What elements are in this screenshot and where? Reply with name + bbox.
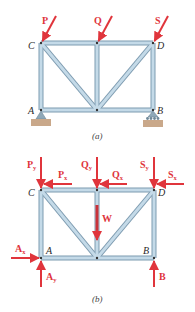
- joint-d-label: D: [156, 40, 165, 51]
- truss-a: P Q S C D A B (a): [27, 15, 168, 141]
- joint-c-label-b: C: [28, 187, 35, 198]
- force-qy-label: Qy: [81, 159, 93, 171]
- load-p-label: P: [42, 15, 48, 26]
- truss-b: W Py Px Qy Qx Sy Sx Ax Ay B C D A B (b): [11, 157, 184, 304]
- force-qx-label: Qx: [112, 169, 124, 181]
- joint-b-label-b: B: [143, 245, 149, 256]
- force-py-label: Py: [27, 159, 37, 171]
- force-ay-label: Ay: [46, 271, 57, 283]
- truss-figure: P Q S C D A B (a): [0, 0, 195, 312]
- caption-a: (a): [92, 131, 103, 141]
- weight-w-label: W: [102, 213, 112, 224]
- force-px-label: Px: [58, 169, 68, 181]
- force-sy-label: Sy: [140, 159, 150, 171]
- caption-b: (b): [92, 294, 103, 304]
- force-ax-label: Ax: [15, 243, 26, 255]
- joint-b-label: B: [157, 105, 163, 116]
- load-s-label: S: [155, 15, 161, 26]
- joint-a-label: A: [27, 105, 35, 116]
- joint-c-label: C: [28, 40, 35, 51]
- joint-a-label-b: A: [45, 245, 53, 256]
- force-sx-label: Sx: [168, 169, 178, 181]
- force-b-label: B: [159, 271, 166, 282]
- load-q-label: Q: [94, 15, 102, 26]
- joint-d-label-b: D: [157, 187, 166, 198]
